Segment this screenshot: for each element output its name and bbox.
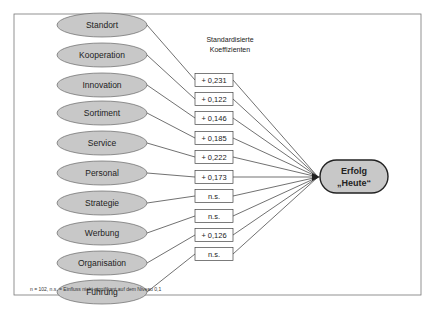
factor-label: Service [88, 138, 117, 148]
factor-label: Sortiment [84, 108, 121, 118]
coefficients-header-line1: Standardisierte [206, 36, 253, 43]
coefficient-value: + 0,126 [201, 231, 226, 240]
footnote: n = 102, n.s. = Einfluss nicht signifika… [30, 286, 161, 292]
coefficient-value: n.s. [208, 192, 220, 201]
factor-label: Standort [86, 20, 119, 30]
target-label-line1: Erfolg [341, 166, 367, 176]
target-label-line2: „Heute“ [337, 178, 371, 188]
coefficient-value: + 0,173 [201, 173, 226, 182]
factor-label: Innovation [82, 80, 121, 90]
path-diagram: Standardisierte Koeffizienten StandortKo… [0, 0, 433, 323]
factor-label: Organisation [78, 258, 126, 268]
factor-label: Strategie [85, 198, 119, 208]
coefficient-value: + 0,231 [201, 76, 226, 85]
factor-label: Personal [85, 168, 119, 178]
coefficient-value: + 0,185 [201, 134, 226, 143]
factor-label: Werbung [85, 228, 120, 238]
coefficient-value: + 0,146 [201, 114, 226, 123]
target-erfolg-heute [320, 160, 388, 193]
coefficients-header-line2: Koeffizienten [210, 46, 250, 53]
factor-label: Kooperation [79, 50, 125, 60]
coefficient-value: n.s. [208, 250, 220, 259]
coefficient-value: n.s. [208, 212, 220, 221]
coefficient-value: + 0,222 [201, 153, 226, 162]
coefficient-value: + 0,122 [201, 95, 226, 104]
